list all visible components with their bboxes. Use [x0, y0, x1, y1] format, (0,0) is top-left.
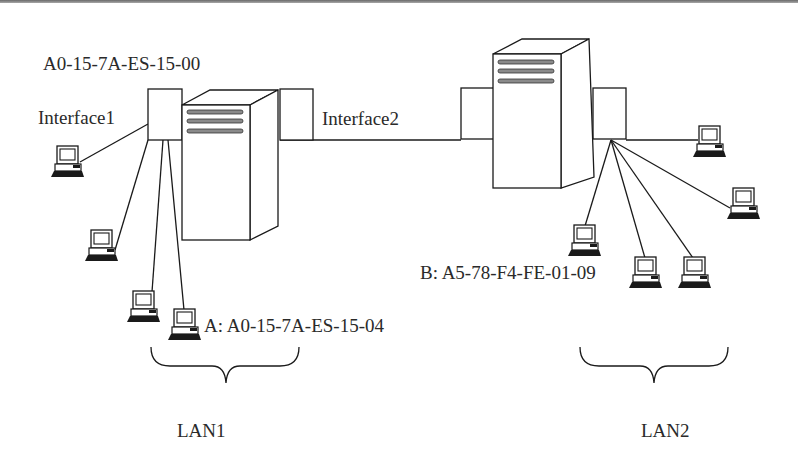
- lan2-host-2-computer-icon: [727, 188, 760, 219]
- lan1-label: LAN1: [177, 421, 226, 440]
- lan1-host-3-computer-icon: [127, 291, 160, 322]
- interface1-label: Interface1: [38, 108, 115, 127]
- lan1-host-1-computer-icon: [51, 146, 84, 177]
- host-b-mac-label: B: A5-78-F4-FE-01-09: [420, 263, 596, 282]
- router2-left-port: [461, 88, 494, 139]
- interface2-label: Interface2: [322, 109, 399, 128]
- host-a-mac-label: A: A0-15-7A-ES-15-04: [204, 316, 384, 335]
- lan2-label: LAN2: [641, 421, 690, 440]
- lan1-host-a-computer-icon: [168, 309, 201, 340]
- router2-icon: [461, 39, 626, 188]
- lan2-host-4-computer-icon: [629, 257, 662, 288]
- router1-interface1-mac-label: A0-15-7A-ES-15-00: [43, 54, 200, 73]
- router1-icon: [148, 89, 313, 240]
- router1-interface2-port: [280, 89, 313, 140]
- link-lan1-host-3: [152, 140, 163, 292]
- link-lan2-host-4: [611, 140, 645, 258]
- lan2-brace: [580, 347, 728, 383]
- lan1-brace: [151, 347, 299, 383]
- router2-right-port: [593, 88, 626, 139]
- router1-interface1-port: [148, 89, 182, 140]
- lan2-host-5-computer-icon: [678, 257, 711, 288]
- link-lan2-host-5: [611, 140, 693, 258]
- link-lan1-host-1: [80, 124, 148, 162]
- lan1-host-2-computer-icon: [85, 230, 118, 261]
- lan2-host-b-computer-icon: [568, 225, 601, 256]
- link-lan1-host-2: [115, 140, 148, 250]
- lan2-host-1-computer-icon: [693, 126, 726, 157]
